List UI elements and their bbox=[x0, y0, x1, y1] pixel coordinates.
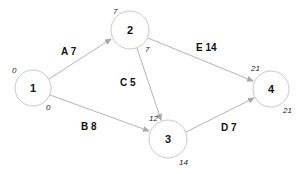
edge-d-3-to-4 bbox=[186, 98, 254, 132]
edge-label-b: B 8 bbox=[81, 121, 97, 132]
node-1: 1 0 0 bbox=[12, 66, 51, 112]
node-1-early-time: 0 bbox=[12, 66, 17, 75]
node-4-late-time: 21 bbox=[282, 106, 292, 115]
edge-b-1-to-3 bbox=[50, 95, 149, 131]
node-3-late-time: 14 bbox=[179, 158, 188, 167]
node-2-label: 2 bbox=[127, 24, 133, 36]
node-2-early-time: 7 bbox=[113, 7, 118, 16]
node-2-late-time: 7 bbox=[145, 45, 150, 54]
node-1-label: 1 bbox=[30, 82, 36, 94]
edge-label-d: D 7 bbox=[221, 122, 237, 133]
node-4: 4 21 21 bbox=[250, 64, 292, 115]
node-3: 3 12 14 bbox=[149, 114, 188, 167]
edge-a-1-to-2 bbox=[49, 39, 111, 79]
edge-label-a: A 7 bbox=[61, 46, 77, 57]
edge-label-c: C 5 bbox=[120, 77, 136, 88]
edge-label-e: E 14 bbox=[196, 42, 217, 53]
node-4-early-time: 21 bbox=[250, 64, 260, 73]
node-3-label: 3 bbox=[165, 133, 171, 145]
node-4-label: 4 bbox=[268, 83, 275, 95]
node-2: 2 7 7 bbox=[111, 7, 150, 54]
edge-c-2-to-3 bbox=[137, 48, 161, 120]
network-diagram: A 7 B 8 C 5 D 7 E 14 1 0 0 2 7 7 3 12 14… bbox=[0, 0, 302, 174]
node-3-early-time: 12 bbox=[149, 114, 158, 123]
node-1-late-time: 0 bbox=[46, 103, 51, 112]
